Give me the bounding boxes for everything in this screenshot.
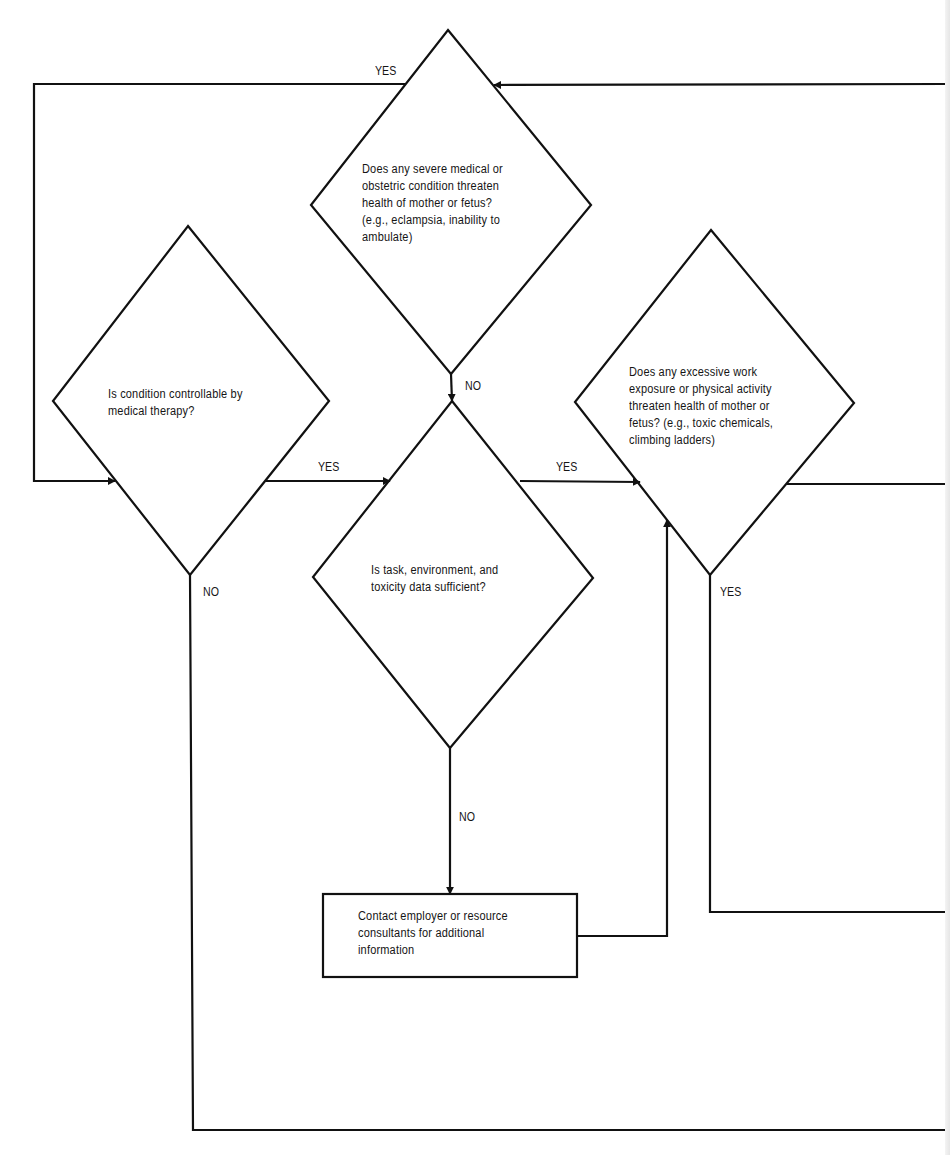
label-work-yes: YES: [720, 585, 741, 599]
label-controllable-yes: YES: [318, 460, 339, 474]
edge-controllable-no: [190, 575, 945, 1130]
node-text-severe-condition: Does any severe medical or obstetric con…: [362, 161, 503, 246]
edge-work-yes: [710, 575, 945, 912]
page-edge-shadow: [945, 0, 950, 1155]
node-text-contact-employer: Contact employer or resource consultants…: [358, 908, 508, 959]
node-text-work-exposure: Does any excessive work exposure or phys…: [629, 364, 773, 449]
label-data-yes: YES: [556, 460, 577, 474]
node-text-controllable: Is condition controllable by medical the…: [108, 386, 243, 420]
edge-severe-no: [451, 374, 452, 401]
label-controllable-no: NO: [203, 585, 219, 599]
node-text-data-sufficient: Is task, environment, and toxicity data …: [371, 562, 498, 596]
label-severe-no: NO: [465, 379, 481, 393]
edge-offpage-to-severe: [494, 84, 945, 85]
flowchart-canvas: Does any severe medical or obstetric con…: [0, 0, 950, 1155]
label-data-no: NO: [459, 810, 475, 824]
edge-data-yes: [520, 481, 640, 482]
label-severe-yes: YES: [375, 64, 396, 78]
